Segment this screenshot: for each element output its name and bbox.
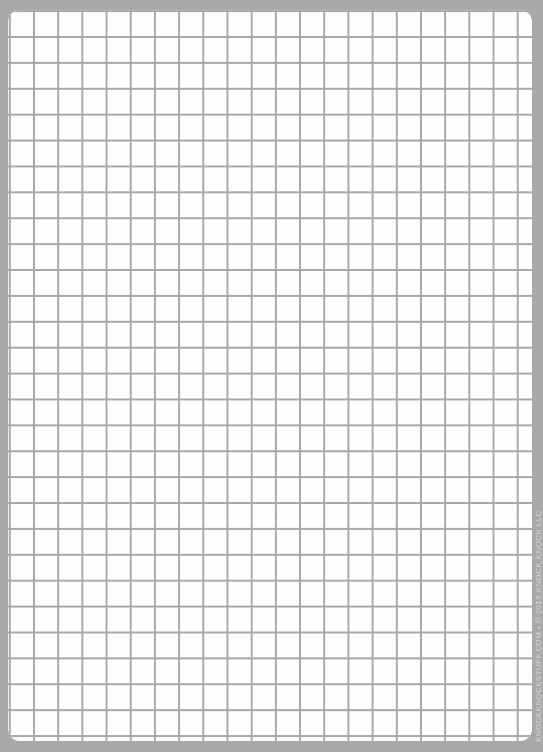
copyright-credit: KNOCKKNOCKSTUFF.COM • © 2015 KNOCK KNOCK… — [534, 510, 543, 742]
graph-paper-sheet — [8, 10, 532, 741]
grid-lines — [8, 10, 532, 741]
